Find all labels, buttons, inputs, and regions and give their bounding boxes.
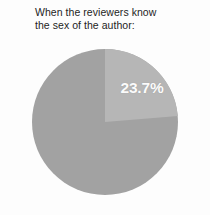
chart-title-line-1: When the reviewers know [35, 6, 195, 19]
chart-title: When the reviewers know the sex of the a… [35, 6, 195, 31]
chart-title-line-2: the sex of the author: [35, 19, 195, 32]
pie-chart-svg [32, 42, 178, 202]
pie-slice-percentage-label: 23.7% [112, 79, 172, 97]
pie-chart-figure: When the reviewers know the sex of the a… [0, 0, 210, 215]
pie-chart: 23.7% [32, 42, 178, 202]
